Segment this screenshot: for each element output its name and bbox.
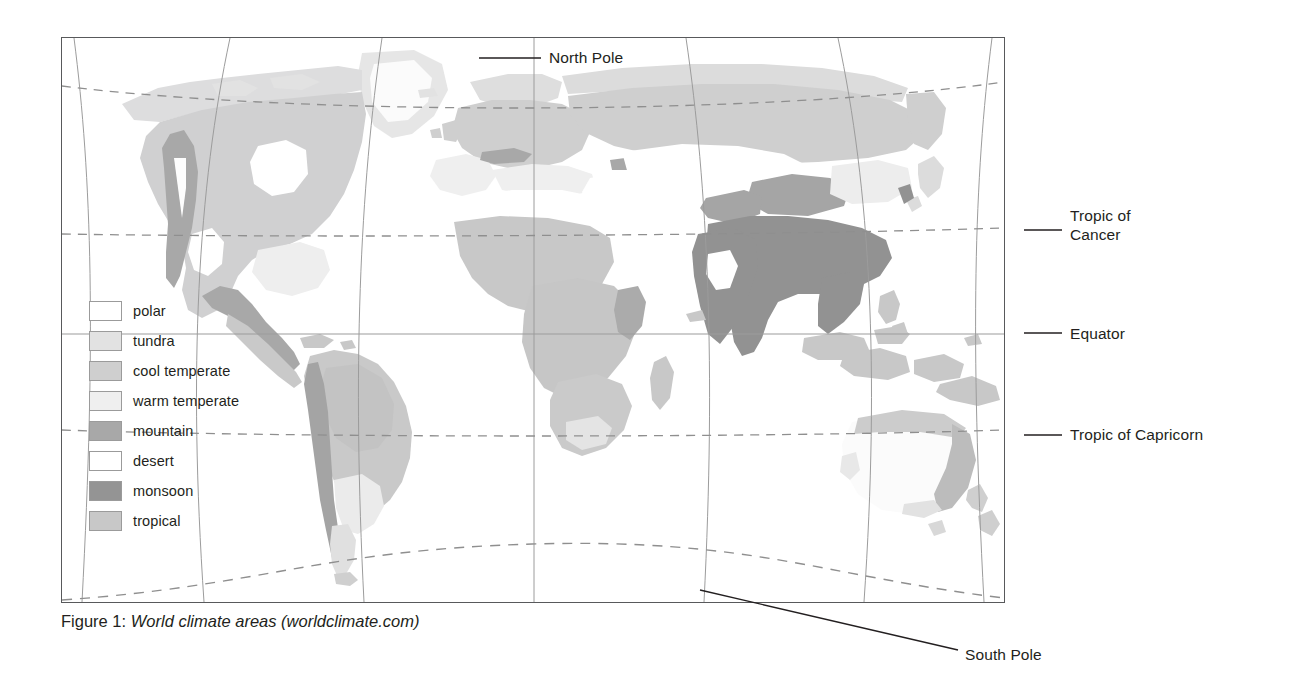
label-equator: Equator [1070,324,1125,343]
legend-swatch-tundra [89,331,122,351]
legend-label-cool-temperate: cool temperate [133,364,230,379]
figure-world-climate-areas: polar tundra cool temperate warm tempera… [0,0,1297,695]
legend-swatch-monsoon [89,481,122,501]
legend-item: cool temperate [89,356,269,386]
legend-label-warm-temperate: warm temperate [133,394,239,409]
legend-item: tropical [89,506,269,536]
legend-item: desert [89,446,269,476]
figure-caption: Figure 1: World climate areas (worldclim… [61,612,420,631]
legend-label-mountain: mountain [133,424,193,439]
map-frame: polar tundra cool temperate warm tempera… [61,37,1005,603]
legend-swatch-tropical [89,511,122,531]
legend-swatch-warm-temperate [89,391,122,411]
legend-label-tundra: tundra [133,334,175,349]
legend-label-monsoon: monsoon [133,484,193,499]
legend-swatch-polar [89,301,122,321]
figure-caption-prefix: Figure 1: [61,612,126,630]
label-south-pole: South Pole [965,645,1042,664]
climate-legend: polar tundra cool temperate warm tempera… [89,296,269,536]
legend-item: mountain [89,416,269,446]
legend-swatch-mountain [89,421,122,441]
label-north-pole: North Pole [549,48,623,67]
legend-item: tundra [89,326,269,356]
legend-item: monsoon [89,476,269,506]
legend-label-desert: desert [133,454,174,469]
legend-swatch-desert [89,451,122,471]
legend-label-tropical: tropical [133,514,181,529]
legend-item: warm temperate [89,386,269,416]
label-tropic-of-capricorn: Tropic of Capricorn [1070,425,1203,444]
label-tropic-of-cancer: Tropic of Cancer [1070,206,1131,244]
figure-caption-title: World climate areas (worldclimate.com) [131,612,420,630]
legend-swatch-cool-temperate [89,361,122,381]
legend-item: polar [89,296,269,326]
legend-label-polar: polar [133,304,166,319]
